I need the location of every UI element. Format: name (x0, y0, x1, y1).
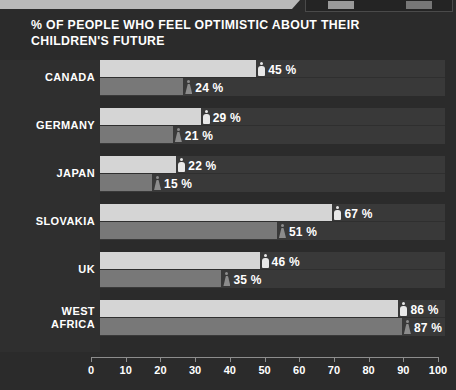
bar-female (100, 222, 277, 239)
bar-value-label: 29 % (213, 111, 241, 125)
axis-tick-label: 70 (319, 364, 349, 376)
banner-chip-icon (328, 1, 354, 9)
bar-value-label: 24 % (195, 81, 223, 95)
axis-tick-label: 40 (215, 364, 245, 376)
category-label: JAPAN (0, 167, 95, 180)
banner-light-strip (0, 0, 300, 9)
male-figure-icon (262, 254, 269, 268)
bar-group: CANADA45 %24 % (0, 60, 456, 108)
category-label: WESTAFRICA (0, 305, 95, 330)
bar-female (100, 126, 173, 143)
female-figure-icon (185, 80, 192, 94)
bar-male (100, 108, 201, 125)
axis-tick-label: 30 (180, 364, 210, 376)
bar-group: SLOVAKIA67 %51 % (0, 204, 456, 252)
axis-tick (126, 357, 127, 362)
male-figure-icon (334, 206, 341, 220)
female-figure-icon (223, 272, 230, 286)
bar-value-label: 51 % (289, 225, 317, 239)
axis-tick (403, 357, 404, 362)
bar-group: GERMANY29 %21 % (0, 108, 456, 156)
axis-tick (230, 357, 231, 362)
axis-tick-label: 50 (250, 364, 280, 376)
top-banner (0, 0, 456, 13)
bar-female (100, 318, 402, 335)
axis-tick-label: 60 (284, 364, 314, 376)
bar-value-label: 86 % (410, 303, 438, 317)
bar-group: UK46 %35 % (0, 252, 456, 300)
bar-male (100, 204, 332, 221)
category-label: GERMANY (0, 119, 95, 132)
axis-tick-label: 10 (111, 364, 141, 376)
bar-value-label: 87 % (414, 321, 442, 335)
axis-tick-label: 0 (76, 364, 106, 376)
female-figure-icon (175, 128, 182, 142)
bar-value-label: 45 % (268, 63, 296, 77)
axis-tick-label: 20 (145, 364, 175, 376)
bar-female (100, 270, 221, 287)
banner-frame (305, 0, 453, 12)
bar-male (100, 252, 260, 269)
bar-group: WESTAFRICA86 %87 % (0, 300, 456, 348)
axis-tick (369, 357, 370, 362)
axis-tick (265, 357, 266, 362)
axis-tick-label: 90 (388, 364, 418, 376)
axis-tick (299, 357, 300, 362)
axis-tick (195, 357, 196, 362)
banner-chip-icon (406, 1, 432, 9)
bar-value-label: 67 % (344, 207, 372, 221)
female-figure-icon (279, 224, 286, 238)
axis-tick (438, 357, 439, 362)
bar-female (100, 78, 183, 95)
bar-male (100, 300, 398, 317)
bar-value-label: 15 % (164, 177, 192, 191)
category-label: SLOVAKIA (0, 215, 95, 228)
bar-male (100, 156, 176, 173)
bar-group: JAPAN22 %15 % (0, 156, 456, 204)
bar-value-label: 21 % (185, 129, 213, 143)
axis-tick-label: 100 (423, 364, 453, 376)
axis-tick (334, 357, 335, 362)
female-figure-icon (404, 320, 411, 334)
page-title: % OF PEOPLE WHO FEEL OPTIMISTIC ABOUT TH… (31, 18, 361, 49)
female-figure-icon (154, 176, 161, 190)
bar-value-label: 22 % (188, 159, 216, 173)
bar-value-label: 46 % (272, 255, 300, 269)
infographic-chart: % OF PEOPLE WHO FEEL OPTIMISTIC ABOUT TH… (0, 0, 456, 390)
male-figure-icon (178, 158, 185, 172)
male-figure-icon (400, 302, 407, 316)
plot-area: CANADA45 %24 %GERMANY29 %21 %JAPAN22 %15… (0, 60, 456, 355)
bar-value-label: 35 % (233, 273, 261, 287)
male-figure-icon (258, 62, 265, 76)
male-figure-icon (203, 110, 210, 124)
bar-male (100, 60, 256, 77)
axis-tick (91, 357, 92, 362)
bar-female (100, 174, 152, 191)
category-label: UK (0, 263, 95, 276)
axis-tick-label: 80 (354, 364, 384, 376)
x-axis: 0102030405060708090100 (0, 357, 456, 390)
category-label: CANADA (0, 71, 95, 84)
axis-tick (160, 357, 161, 362)
